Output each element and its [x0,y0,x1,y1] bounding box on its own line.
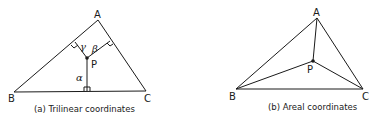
label-alpha: α [76,72,83,83]
point-p-dot [85,56,89,60]
perpendicular-beta [87,41,110,58]
label-p: P [307,64,313,75]
segment-pa [313,18,317,61]
label-b: B [229,91,236,102]
label-gamma: γ [80,41,86,52]
segment-pb [236,61,313,89]
figure-trilinear: A B C P α β γ (a) Trilinear coordinates [8,9,151,114]
label-a: A [94,9,101,20]
right-angle-mark-ac [107,43,113,46]
diagram-canvas: A B C P α β γ (a) Trilinear coordinates … [0,0,378,121]
caption-a: (a) Trilinear coordinates [34,104,135,114]
label-beta: β [91,43,98,54]
label-b: B [8,93,15,104]
caption-b: (b) Areal coordinates [268,102,358,112]
right-angle-mark-ab [71,45,78,48]
label-c: C [362,91,369,102]
label-a: A [313,7,320,18]
figure-areal: A B C P (b) Areal coordinates [229,7,369,112]
segment-pc [313,61,363,89]
point-p-dot [311,59,315,63]
label-p: P [91,59,97,70]
label-c: C [144,93,151,104]
